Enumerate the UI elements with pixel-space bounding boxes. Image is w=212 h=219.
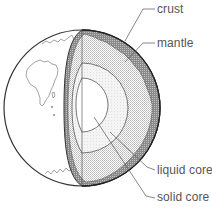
leader-crust	[125, 9, 155, 41]
label-mantle: mantle	[157, 37, 194, 49]
label-crust: crust	[157, 3, 184, 15]
label-liquid-core: liquid core	[157, 164, 212, 176]
earth-cross-section-diagram	[0, 0, 212, 219]
label-solid-core: solid core	[157, 191, 209, 203]
